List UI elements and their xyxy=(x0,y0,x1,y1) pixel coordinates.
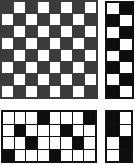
grid-cell[interactable] xyxy=(50,137,61,149)
grid-cell[interactable] xyxy=(38,2,49,13)
panel-large-gray-checkerboard[interactable] xyxy=(0,0,98,99)
grid-cell[interactable] xyxy=(120,74,132,85)
grid-cell[interactable] xyxy=(85,62,96,73)
grid-cell[interactable] xyxy=(38,62,49,73)
grid-cell[interactable] xyxy=(38,74,49,85)
grid-cell[interactable] xyxy=(2,38,13,49)
grid-cell[interactable] xyxy=(73,38,84,49)
grid-cell[interactable] xyxy=(26,38,37,49)
grid-cell[interactable] xyxy=(38,38,49,49)
grid-cell[interactable] xyxy=(120,51,132,62)
grid-cell[interactable] xyxy=(120,62,132,73)
grid-cell[interactable] xyxy=(38,26,49,37)
grid-cell[interactable] xyxy=(73,112,84,124)
grid-cell[interactable] xyxy=(38,150,49,162)
grid-cell[interactable] xyxy=(84,137,95,149)
grid-cell[interactable] xyxy=(15,150,26,162)
grid-cell[interactable] xyxy=(26,125,37,137)
grid-cell[interactable] xyxy=(73,137,84,149)
grid-cell[interactable] xyxy=(85,74,96,85)
grid-cell[interactable] xyxy=(85,14,96,25)
grid-cell[interactable] xyxy=(15,137,26,149)
grid-cell[interactable] xyxy=(38,137,49,149)
grid-cell[interactable] xyxy=(50,112,61,124)
grid-cell[interactable] xyxy=(73,50,84,61)
grid-cell[interactable] xyxy=(26,26,37,37)
grid-cell[interactable] xyxy=(50,62,61,73)
grid-cell[interactable] xyxy=(61,112,72,124)
grid-cell[interactable] xyxy=(61,14,72,25)
grid-cell[interactable] xyxy=(120,27,132,38)
grid-cell[interactable] xyxy=(84,125,95,137)
grid-cell[interactable] xyxy=(73,26,84,37)
grid-cell[interactable] xyxy=(2,86,13,97)
grid-cell[interactable] xyxy=(50,26,61,37)
grid-cell[interactable] xyxy=(120,137,132,149)
grid-cell[interactable] xyxy=(14,86,25,97)
grid-cell[interactable] xyxy=(61,86,72,97)
grid-cell[interactable] xyxy=(61,62,72,73)
grid-cell[interactable] xyxy=(14,38,25,49)
grid-cell[interactable] xyxy=(26,137,37,149)
grid-cell[interactable] xyxy=(61,38,72,49)
grid-cell[interactable] xyxy=(26,150,37,162)
grid-cell[interactable] xyxy=(73,74,84,85)
grid-cell[interactable] xyxy=(50,150,61,162)
grid-cell[interactable] xyxy=(38,86,49,97)
grid-cell[interactable] xyxy=(2,50,13,61)
grid-cell[interactable] xyxy=(14,26,25,37)
grid-cell[interactable] xyxy=(120,15,132,26)
grid-cell[interactable] xyxy=(26,112,37,124)
grid-cell[interactable] xyxy=(73,62,84,73)
grid-cell[interactable] xyxy=(2,62,13,73)
grid-cell[interactable] xyxy=(26,62,37,73)
grid-cell[interactable] xyxy=(73,86,84,97)
grid-cell[interactable] xyxy=(107,62,119,73)
grid-cell[interactable] xyxy=(85,26,96,37)
grid-cell[interactable] xyxy=(107,137,119,149)
grid-cell[interactable] xyxy=(50,74,61,85)
grid-cell[interactable] xyxy=(3,112,14,124)
grid-cell[interactable] xyxy=(14,62,25,73)
grid-cell[interactable] xyxy=(61,150,72,162)
grid-cell[interactable] xyxy=(73,14,84,25)
grid-cell[interactable] xyxy=(2,14,13,25)
grid-cell[interactable] xyxy=(26,74,37,85)
grid-cell[interactable] xyxy=(50,38,61,49)
grid-cell[interactable] xyxy=(120,39,132,50)
grid-cell[interactable] xyxy=(61,2,72,13)
grid-cell[interactable] xyxy=(84,112,95,124)
grid-cell[interactable] xyxy=(15,125,26,137)
panel-tall-black-checkerboard[interactable] xyxy=(105,1,134,99)
grid-cell[interactable] xyxy=(107,125,119,137)
grid-cell[interactable] xyxy=(85,86,96,97)
panel-wide-sparse-pattern[interactable] xyxy=(1,110,97,163)
grid-cell[interactable] xyxy=(38,14,49,25)
grid-cell[interactable] xyxy=(14,14,25,25)
grid-cell[interactable] xyxy=(120,112,132,124)
grid-cell[interactable] xyxy=(107,39,119,50)
grid-cell[interactable] xyxy=(38,50,49,61)
grid-cell[interactable] xyxy=(26,50,37,61)
grid-cell[interactable] xyxy=(85,38,96,49)
grid-cell[interactable] xyxy=(73,150,84,162)
grid-cell[interactable] xyxy=(15,112,26,124)
grid-cell[interactable] xyxy=(73,125,84,137)
grid-cell[interactable] xyxy=(26,86,37,97)
grid-cell[interactable] xyxy=(107,3,119,14)
grid-cell[interactable] xyxy=(84,150,95,162)
grid-cell[interactable] xyxy=(120,86,132,97)
grid-cell[interactable] xyxy=(61,137,72,149)
grid-cell[interactable] xyxy=(61,26,72,37)
grid-cell[interactable] xyxy=(14,50,25,61)
grid-cell[interactable] xyxy=(107,74,119,85)
grid-cell[interactable] xyxy=(2,26,13,37)
grid-cell[interactable] xyxy=(107,86,119,97)
grid-cell[interactable] xyxy=(50,86,61,97)
grid-cell[interactable] xyxy=(2,74,13,85)
grid-cell[interactable] xyxy=(107,15,119,26)
grid-cell[interactable] xyxy=(107,51,119,62)
grid-cell[interactable] xyxy=(50,2,61,13)
grid-cell[interactable] xyxy=(26,2,37,13)
grid-cell[interactable] xyxy=(61,74,72,85)
